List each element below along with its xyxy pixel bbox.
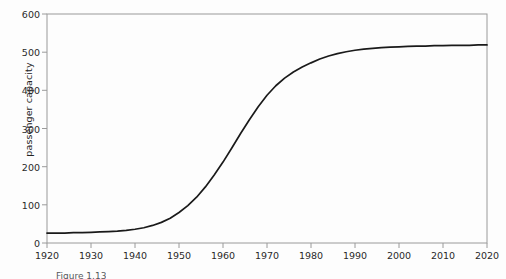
plot-border: [47, 14, 487, 243]
y-axis-ticks: [42, 14, 47, 243]
plot-area: [0, 0, 506, 279]
line-chart-figure: passenger capacity 0 100 200 300 400 500…: [0, 0, 506, 279]
chart-screenshot: passenger capacity 0 100 200 300 400 500…: [0, 0, 506, 279]
figure-caption: Figure 1.13: [56, 271, 106, 279]
x-axis-ticks: [47, 243, 487, 248]
data-line-passenger-capacity: [47, 45, 487, 233]
